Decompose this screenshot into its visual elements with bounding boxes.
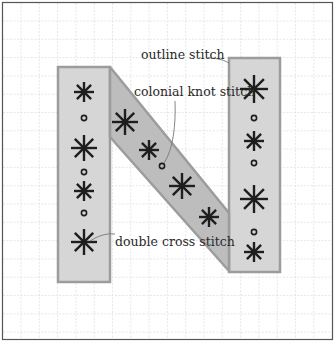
double-cross-stitch-icon — [71, 229, 97, 255]
double-cross-stitch-icon — [74, 82, 94, 102]
label-outline-stitch: outline stitch — [141, 47, 225, 62]
label-colonial-knot-stitch: colonial knot stitch — [134, 84, 255, 99]
label-double-cross-stitch: double cross stitch — [115, 234, 235, 249]
double-cross-stitch-icon — [244, 131, 264, 151]
double-cross-stitch-icon — [74, 181, 94, 201]
double-cross-stitch-icon — [71, 135, 97, 161]
double-cross-stitch-icon — [169, 173, 195, 199]
double-cross-stitch-icon — [139, 140, 159, 160]
double-cross-stitch-icon — [112, 109, 138, 135]
double-cross-stitch-icon — [240, 185, 268, 213]
double-cross-stitch-icon — [244, 242, 264, 262]
stitch-diagram: outline stitch colonial knot stitch doub… — [0, 0, 335, 343]
double-cross-stitch-icon — [199, 207, 219, 227]
